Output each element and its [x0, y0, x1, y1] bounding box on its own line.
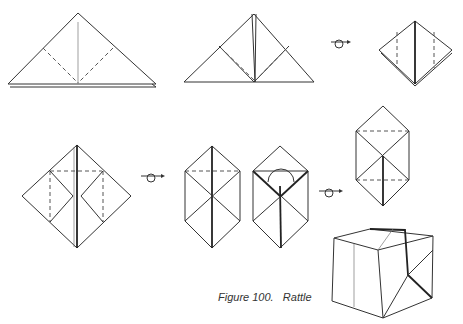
caption-number: Figure 100.	[218, 291, 274, 303]
origami-diagram	[0, 0, 463, 324]
step-2-triangle	[184, 14, 314, 82]
step-3-diamond	[379, 21, 452, 86]
step-8-cube	[332, 229, 433, 318]
turn-over-arrow-icon	[331, 40, 351, 48]
step-5-hexagon	[185, 146, 240, 248]
step-6-hexagon	[253, 146, 308, 248]
turn-over-arrow-icon	[319, 189, 343, 197]
turn-over-arrow-icon	[141, 174, 165, 182]
step-1-triangle	[8, 13, 156, 87]
caption-title: Rattle	[283, 291, 312, 303]
step-4-diamond	[22, 145, 131, 248]
figure-caption: Figure 100. Rattle	[218, 291, 312, 303]
step-7-hexagon	[356, 106, 409, 206]
